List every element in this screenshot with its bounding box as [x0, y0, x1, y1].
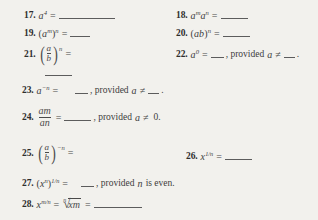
- answer-blank-27[interactable]: [81, 179, 94, 187]
- not-equal-sign-24: ≠: [143, 112, 149, 123]
- exercise-row-21: 21. ( a b ) n =: [24, 44, 74, 64]
- exponent-26: 1/n: [205, 150, 213, 157]
- exercise-item-21: 21. ( a b ) n =: [24, 44, 74, 64]
- equals-sign-25: =: [68, 147, 74, 158]
- exercise-number-25: 25.: [22, 148, 34, 158]
- provided-value-24: 0.: [154, 112, 161, 122]
- period-22: .: [297, 49, 299, 59]
- exercise-number-18: 18.: [176, 10, 188, 20]
- exercise-item-22: 22. a0 = , provided a ≠ .: [176, 48, 299, 60]
- answer-blank-21[interactable]: [45, 68, 72, 76]
- fraction-numerator-25: a: [45, 143, 50, 152]
- exercise-item-25: 25. ( a b ) −n =: [22, 143, 76, 163]
- exercise-item-23: 23. a−n = , provided a ≠ .: [22, 84, 164, 96]
- answer-blank-28[interactable]: [94, 200, 142, 208]
- exercise-row-28: 28. xm/n = n √ xm =: [22, 198, 142, 211]
- exercise-item-26: 26. x1/n =: [186, 150, 252, 162]
- expression-26: x1/n: [201, 150, 214, 162]
- exercise-item-28: 28. xm/n = n √ xm =: [22, 198, 142, 211]
- radical-expression-28: n √ xm: [63, 198, 81, 211]
- exercise-item-18: 18. aman =: [176, 9, 248, 21]
- equals-sign-28-second: =: [85, 199, 91, 210]
- equals-sign-27: =: [62, 178, 68, 189]
- period-23: .: [161, 85, 163, 95]
- provided-variable-27: n: [138, 178, 143, 189]
- exercise-item-17: 17. a4 =: [24, 9, 115, 21]
- fraction-21: a b: [47, 44, 52, 64]
- answer-blank-row-21: [45, 68, 72, 76]
- exercise-number-20: 20.: [176, 28, 188, 38]
- expression-22: a0: [191, 48, 199, 60]
- expression-21: ( a b ) n: [39, 44, 63, 64]
- exercise-number-19: 19.: [24, 28, 36, 38]
- provided-text-22: , provided: [226, 49, 265, 59]
- expression-25: ( a b ) −n: [37, 143, 65, 163]
- provided-variable-22: a: [267, 49, 272, 60]
- exercise-row-20: 20. (ab)n =: [176, 27, 250, 39]
- provided-text-24: , provided: [93, 112, 132, 122]
- not-equal-sign-23: ≠: [140, 85, 146, 96]
- exercise-row-18: 18. aman =: [176, 9, 248, 21]
- equals-sign-22: =: [202, 49, 208, 60]
- expression-23: a−n: [37, 84, 50, 96]
- fraction-numerator-24: am: [39, 106, 51, 117]
- not-equal-sign-22: ≠: [275, 49, 281, 60]
- exponent-17: 4: [44, 9, 47, 16]
- right-paren-21: ): [53, 46, 58, 63]
- condition-blank-23[interactable]: [148, 86, 159, 94]
- equals-sign-17: =: [50, 10, 56, 21]
- expression-18: aman: [191, 9, 209, 21]
- answer-blank-23[interactable]: [75, 86, 88, 94]
- exercise-row-26: 26. x1/n =: [186, 150, 252, 162]
- expression-28: xm/n: [37, 198, 51, 210]
- exercise-row-25: 25. ( a b ) −n =: [22, 143, 76, 163]
- answer-blank-17[interactable]: [59, 11, 115, 19]
- equals-sign-24: =: [56, 112, 62, 123]
- fraction-25: a b: [45, 143, 50, 163]
- left-paren-21: (: [40, 46, 45, 63]
- equals-sign-23: =: [52, 85, 58, 96]
- radicand-28: xm: [68, 198, 81, 211]
- exercise-number-22: 22.: [176, 49, 188, 59]
- provided-variable-24: a: [135, 112, 140, 123]
- fraction-denominator-25: b: [45, 152, 50, 162]
- exercise-row-17-18: 17. a4 =: [24, 9, 115, 21]
- answer-blank-19[interactable]: [70, 29, 90, 37]
- answer-blank-22[interactable]: [211, 50, 224, 58]
- provided-text-27: , provided: [96, 178, 135, 188]
- exercise-item-19: 19. (am)n =: [24, 27, 90, 39]
- expression-19: (am)n: [39, 27, 59, 39]
- condition-blank-22[interactable]: [284, 50, 295, 58]
- exponent-28: m/n: [41, 198, 50, 205]
- exercise-row-19: 19. (am)n =: [24, 27, 90, 39]
- exercise-number-26: 26.: [186, 151, 198, 161]
- exercise-row-27: 27. (xn)1/n = , provided n is even.: [22, 177, 175, 189]
- fraction-denominator-24: an: [39, 117, 51, 129]
- equals-sign-18: =: [212, 10, 218, 21]
- exponent-22: 0: [196, 48, 199, 55]
- answer-blank-20[interactable]: [223, 29, 250, 37]
- fraction-denominator-21: b: [47, 53, 52, 63]
- exercise-row-24: 24. am an = , provided a ≠ 0.: [22, 106, 161, 128]
- exercise-item-27: 27. (xn)1/n = , provided n is even.: [22, 177, 175, 189]
- equals-sign-21: =: [65, 48, 71, 59]
- exercise-number-28: 28.: [22, 199, 34, 209]
- exercise-item-20: 20. (ab)n =: [176, 27, 250, 39]
- fraction-numerator-21: a: [47, 44, 52, 53]
- exercise-number-21: 21.: [24, 49, 36, 59]
- radical-index-28: n: [63, 197, 66, 203]
- equals-sign-28-first: =: [54, 199, 60, 210]
- answer-blank-24[interactable]: [64, 113, 91, 121]
- exponent-23: −n: [42, 84, 50, 91]
- exercise-number-24: 24.: [22, 112, 34, 122]
- provided-variable-23: a: [132, 85, 137, 96]
- answer-blank-18[interactable]: [221, 11, 248, 19]
- exercise-page: 17. a4 = 18. aman = 19. (am)n = 20. (ab)…: [0, 0, 318, 220]
- fraction-24: am an: [39, 106, 51, 128]
- equals-sign-19: =: [62, 28, 68, 39]
- expression-17: a4: [39, 9, 47, 21]
- answer-blank-26[interactable]: [225, 152, 252, 160]
- left-paren-25: (: [38, 145, 43, 162]
- exercise-number-23: 23.: [22, 85, 34, 95]
- right-paren-25: ): [51, 145, 56, 162]
